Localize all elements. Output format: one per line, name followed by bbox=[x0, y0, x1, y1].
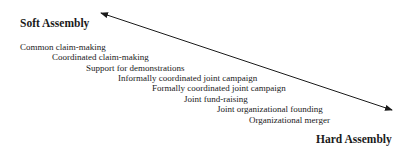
hard-assembly-label: Hard Assembly bbox=[316, 134, 392, 146]
step-joint-fund-raising: Joint fund-raising bbox=[184, 95, 248, 104]
step-informally-coordinated-joint-campaign: Informally coordinated joint campaign bbox=[118, 74, 257, 83]
step-formally-coordinated-joint-campaign: Formally coordinated joint campaign bbox=[152, 84, 286, 93]
step-organizational-merger: Organizational merger bbox=[249, 116, 330, 125]
step-joint-organizational-founding: Joint organizational founding bbox=[217, 105, 323, 114]
step-coordinated-claim-making: Coordinated claim-making bbox=[52, 53, 149, 62]
step-support-for-demonstrations: Support for demonstrations bbox=[86, 64, 185, 73]
step-common-claim-making: Common claim-making bbox=[20, 43, 106, 52]
soft-assembly-label: Soft Assembly bbox=[20, 18, 89, 30]
